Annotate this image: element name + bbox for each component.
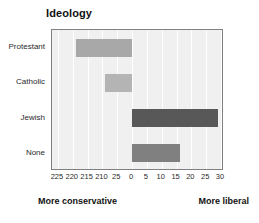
bar-none[interactable] bbox=[132, 144, 179, 162]
annotation-more-conservative: More conservative bbox=[38, 196, 117, 206]
x-tick-label--5: 25 bbox=[112, 172, 120, 181]
bar-jewish[interactable] bbox=[132, 109, 218, 127]
x-tick-label-0: 0 bbox=[129, 172, 133, 181]
bar-row bbox=[52, 136, 222, 170]
category-axis: Protestant Catholic Jewish None bbox=[0, 29, 48, 170]
x-tick-label-30: 30 bbox=[216, 172, 224, 181]
chart-title: Ideology bbox=[46, 7, 92, 19]
bar-row bbox=[52, 65, 222, 100]
x-tick-label-10: 10 bbox=[157, 172, 165, 181]
x-tick-label-5: 5 bbox=[144, 172, 148, 181]
bar-protestant[interactable] bbox=[76, 39, 132, 57]
axis-annotations: More conservative More liberal bbox=[0, 196, 259, 212]
x-tick-label--10: 210 bbox=[95, 172, 108, 181]
bars-layer bbox=[52, 30, 222, 169]
category-label-protestant: Protestant bbox=[9, 29, 45, 64]
plot-area bbox=[51, 29, 223, 170]
x-tick-label--25: 225 bbox=[51, 172, 64, 181]
category-label-catholic: Catholic bbox=[16, 64, 45, 99]
x-tick-label--20: 220 bbox=[65, 172, 78, 181]
bar-catholic[interactable] bbox=[105, 74, 132, 92]
x-tick-label--15: 215 bbox=[80, 172, 93, 181]
x-tick-label-15: 15 bbox=[171, 172, 179, 181]
x-tick-label-20: 20 bbox=[186, 172, 194, 181]
x-axis-ticks: 22522021521025051015202530 bbox=[51, 172, 223, 185]
bar-row bbox=[52, 30, 222, 65]
category-label-jewish: Jewish bbox=[21, 100, 45, 135]
category-label-none: None bbox=[26, 135, 45, 170]
x-tick-label-25: 25 bbox=[201, 172, 209, 181]
bar-row bbox=[52, 101, 222, 136]
annotation-more-liberal: More liberal bbox=[198, 196, 249, 206]
